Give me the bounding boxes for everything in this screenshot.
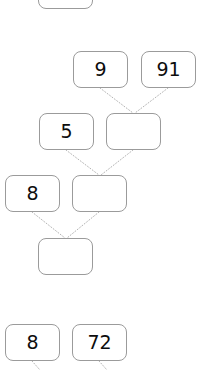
edge-n2-to-n4 (135, 88, 168, 113)
edge-n1-to-n4 (100, 88, 133, 113)
node-n6-empty[interactable] (72, 175, 127, 212)
edge-n3-to-n6 (66, 150, 99, 175)
edge-n6-to-n7 (67, 212, 99, 238)
node-n3-value[interactable]: 5 (39, 113, 94, 150)
edge-n5-to-n7 (32, 212, 65, 238)
node-n5-value[interactable]: 8 (5, 175, 60, 212)
node-n8-value[interactable]: 8 (5, 324, 60, 361)
node-label: 72 (87, 333, 111, 352)
node-label: 9 (94, 60, 106, 79)
node-label: 8 (26, 333, 38, 352)
node-n9-value[interactable]: 72 (72, 324, 127, 361)
diagram-canvas: 99158872 (0, 0, 199, 370)
node-label: 8 (26, 184, 38, 203)
node-n0-empty[interactable] (38, 0, 93, 9)
edge-n4-to-n6 (101, 150, 133, 175)
node-n1-value[interactable]: 9 (73, 51, 128, 88)
node-n4-empty[interactable] (106, 113, 161, 150)
node-n7-empty[interactable] (38, 238, 93, 275)
edge-n9-to-below (99, 361, 107, 370)
node-label: 5 (60, 122, 72, 141)
edge-n8-to-below (32, 361, 40, 370)
node-label: 91 (156, 60, 180, 79)
node-n2-value[interactable]: 91 (141, 51, 196, 88)
